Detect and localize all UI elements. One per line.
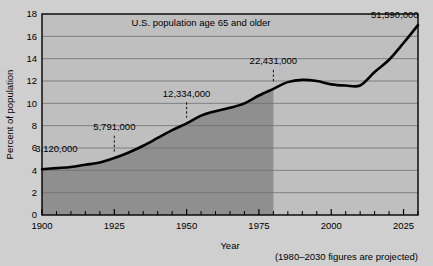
y-tick-label: 8	[32, 120, 37, 131]
x-axis-title: Year	[220, 240, 239, 251]
population-area-chart: 024681012141618 190019251950197520002025…	[0, 0, 433, 266]
chart-footnote: (1980–2030 figures are projected)	[275, 251, 418, 262]
x-tick-label: 2025	[393, 220, 414, 231]
annotation-label: 51,590,000	[371, 9, 419, 20]
y-tick-label: 2	[32, 187, 37, 198]
annotation-label: 22,431,000	[250, 55, 298, 66]
x-tick-label: 1900	[31, 220, 52, 231]
y-tick-label: 0	[32, 209, 37, 220]
x-tick-label: 1975	[248, 220, 269, 231]
annotation-label: 12,334,000	[163, 88, 211, 99]
y-tick-label: 16	[26, 31, 37, 42]
y-tick-label: 12	[26, 75, 37, 86]
y-tick-label: 18	[26, 8, 37, 19]
annotation-label: 5,791,000	[93, 121, 135, 132]
plot-title: U.S. population age 65 and older	[132, 17, 271, 28]
annotation-label: 3,120,000	[35, 143, 77, 154]
y-tick-label: 4	[32, 165, 37, 176]
x-tick-label: 1925	[104, 220, 125, 231]
x-tick-label: 2000	[321, 220, 342, 231]
y-tick-label: 14	[26, 53, 37, 64]
y-tick-label: 10	[26, 98, 37, 109]
x-tick-label: 1950	[176, 220, 197, 231]
y-axis-title: Percent of population	[4, 70, 15, 160]
chart-figure: 024681012141618 190019251950197520002025…	[0, 0, 433, 266]
